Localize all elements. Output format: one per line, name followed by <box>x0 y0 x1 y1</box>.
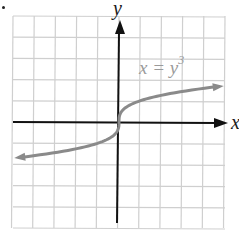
curve-arrow-left-icon <box>14 153 25 161</box>
y-axis-label: y <box>113 0 122 20</box>
y-axis-arrow-icon <box>115 20 125 34</box>
equation-text: x = y <box>139 57 178 78</box>
graph <box>0 0 239 230</box>
equation-label: x = y3 <box>139 56 184 79</box>
equation-exponent: 3 <box>178 53 184 67</box>
x-axis-arrow-icon <box>214 118 228 128</box>
curve-arrow-right-icon <box>212 83 223 91</box>
x-axis-label: x <box>231 111 239 134</box>
